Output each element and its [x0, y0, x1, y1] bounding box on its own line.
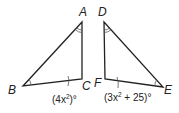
vertex-label-b: B: [8, 83, 16, 97]
angle-c-expression: (4x2)°: [52, 93, 77, 105]
vertex-label-c: C: [82, 79, 91, 93]
vertex-label-d: D: [98, 5, 107, 19]
vertex-label-a: A: [78, 5, 87, 19]
triangle-abc: [23, 22, 82, 86]
congruent-triangles-diagram: A B C D F E (4x2)° (3x2 + 25)°: [0, 0, 179, 113]
angle-a-double-arc: [77, 28, 82, 30]
angle-c-expr-suffix: )°: [70, 94, 77, 105]
angle-f-expression: (3x2 + 25)°: [104, 91, 151, 103]
angle-b-arc: [29, 80, 31, 86]
vertex-label-f: F: [94, 76, 102, 90]
angle-d-double-arc: [104, 28, 109, 30]
angle-c-expr-prefix: (4x: [52, 94, 66, 105]
angle-f-expr-suffix: + 25)°: [122, 92, 152, 103]
triangle-def: [104, 22, 163, 87]
angle-f-tick-mark: [117, 77, 118, 88]
vertex-label-e: E: [164, 83, 173, 97]
angle-e-arc: [155, 80, 157, 86]
angle-f-expr-prefix: (3x: [104, 92, 118, 103]
